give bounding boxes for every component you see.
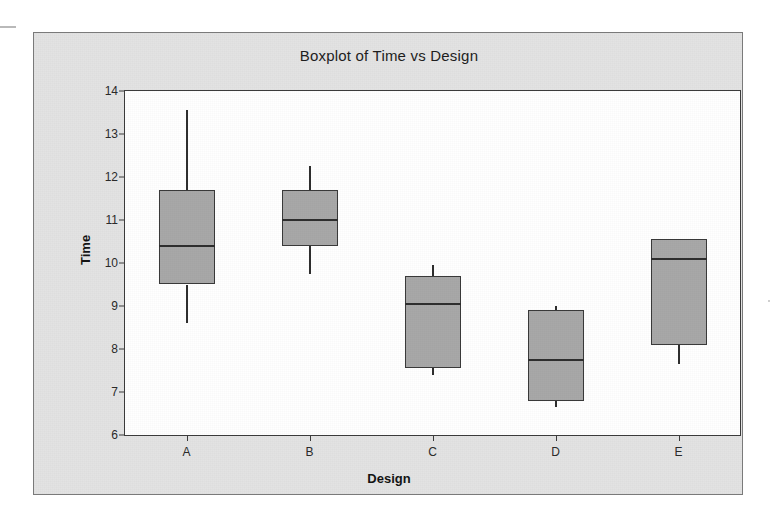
- x-axis-tick-mark: [187, 435, 188, 441]
- median-line: [282, 219, 338, 221]
- x-axis-title: Design: [34, 471, 744, 486]
- y-axis-tick-label: 7: [111, 385, 118, 399]
- x-axis-tick-mark: [679, 435, 680, 441]
- y-axis-tick-mark: [119, 392, 125, 393]
- y-axis-tick-mark: [119, 220, 125, 221]
- scan-edge-mark: [0, 26, 16, 28]
- y-axis-tick-mark: [119, 349, 125, 350]
- boxplot-box-c[interactable]: [405, 91, 461, 435]
- y-axis-tick-label: 8: [111, 342, 118, 356]
- interquartile-box: [405, 276, 461, 368]
- y-axis-tick-label: 12: [105, 170, 118, 184]
- y-axis-tick-label: 6: [111, 428, 118, 442]
- y-axis-tick-mark: [119, 435, 125, 436]
- y-axis-tick-mark: [119, 306, 125, 307]
- x-axis-tick-label: D: [551, 445, 560, 459]
- interquartile-box: [528, 310, 584, 400]
- lower-whisker: [309, 246, 311, 274]
- x-axis-tick-mark: [310, 435, 311, 441]
- y-axis-tick-mark: [119, 263, 125, 264]
- y-axis-tick-label: 9: [111, 299, 118, 313]
- lower-whisker: [432, 368, 434, 374]
- median-line: [651, 258, 707, 260]
- boxplot-box-d[interactable]: [528, 91, 584, 435]
- y-axis-tick-mark: [119, 134, 125, 135]
- upper-whisker: [186, 110, 188, 190]
- y-axis-tick-mark: [119, 177, 125, 178]
- x-axis-tick-label: A: [182, 445, 190, 459]
- boxplot-box-e[interactable]: [651, 91, 707, 435]
- x-axis-tick-mark: [556, 435, 557, 441]
- boxplot-box-b[interactable]: [282, 91, 338, 435]
- lower-whisker: [678, 345, 680, 364]
- x-axis-tick-label: C: [428, 445, 437, 459]
- scan-speck: [768, 300, 770, 302]
- boxplot-figure: Boxplot of Time vs Design Time Design 67…: [33, 32, 743, 495]
- interquartile-box: [282, 190, 338, 246]
- upper-whisker: [309, 166, 311, 190]
- x-axis-tick-label: E: [674, 445, 682, 459]
- lower-whisker: [555, 401, 557, 407]
- x-axis-tick-mark: [433, 435, 434, 441]
- y-axis-tick-mark: [119, 91, 125, 92]
- y-axis-tick-label: 10: [105, 256, 118, 270]
- interquartile-box: [651, 239, 707, 344]
- plot-area: 67891011121314ABCDE: [124, 90, 741, 436]
- median-line: [405, 303, 461, 305]
- y-axis-tick-label: 14: [105, 84, 118, 98]
- page-canvas: Boxplot of Time vs Design Time Design 67…: [0, 0, 780, 528]
- boxplot-box-a[interactable]: [159, 91, 215, 435]
- x-axis-tick-label: B: [305, 445, 313, 459]
- y-axis-tick-label: 13: [105, 127, 118, 141]
- y-axis-tick-label: 11: [106, 213, 118, 227]
- y-axis-title: Time: [78, 235, 93, 265]
- upper-whisker: [432, 265, 434, 276]
- chart-title: Boxplot of Time vs Design: [34, 47, 744, 64]
- median-line: [528, 359, 584, 361]
- lower-whisker: [186, 285, 188, 324]
- median-line: [159, 245, 215, 247]
- interquartile-box: [159, 190, 215, 285]
